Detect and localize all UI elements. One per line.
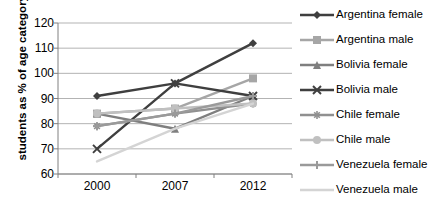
legend-marker-icon bbox=[298, 155, 336, 175]
x-axis-tick-label: 2007 bbox=[145, 180, 205, 192]
legend-marker-icon bbox=[298, 130, 336, 150]
legend-item-bolivia-male[interactable]: Bolivia male bbox=[298, 79, 398, 101]
legend-marker-icon bbox=[298, 180, 336, 200]
legend-marker-icon bbox=[298, 30, 336, 50]
legend-item-bolivia-female[interactable]: Bolivia female bbox=[298, 54, 408, 76]
legend-item-venezuela-female[interactable]: Venezuela female bbox=[298, 154, 427, 176]
marker-diamond bbox=[313, 11, 321, 19]
legend-item-label: Venezuela female bbox=[336, 159, 427, 171]
legend-item-label: Venezuela male bbox=[336, 184, 418, 196]
x-axis-tick-label: 2012 bbox=[223, 180, 283, 192]
legend-item-label: Bolivia male bbox=[336, 84, 398, 96]
marker-circle bbox=[313, 136, 321, 144]
legend-item-label: Bolivia female bbox=[336, 59, 408, 71]
marker-plus bbox=[313, 161, 321, 169]
legend-marker-icon bbox=[298, 55, 336, 75]
legend-item-label: Chile male bbox=[336, 134, 390, 146]
legend-item-argentina-male[interactable]: Argentina male bbox=[298, 29, 413, 51]
legend-marker-icon bbox=[298, 105, 336, 125]
legend-marker-icon bbox=[298, 80, 336, 100]
chart-legend: Argentina femaleArgentina maleBolivia fe… bbox=[298, 0, 440, 207]
legend-item-label: Argentina male bbox=[336, 34, 413, 46]
marker-asterisk bbox=[313, 111, 321, 119]
line-chart: students as % of age category 1201101009… bbox=[0, 0, 440, 207]
legend-item-venezuela-male[interactable]: Venezuela male bbox=[298, 179, 418, 201]
legend-marker-icon bbox=[298, 5, 336, 25]
legend-item-chile-male[interactable]: Chile male bbox=[298, 129, 390, 151]
legend-item-label: Chile female bbox=[336, 109, 400, 121]
legend-item-argentina-female[interactable]: Argentina female bbox=[298, 4, 423, 26]
marker-square bbox=[313, 36, 321, 44]
legend-item-chile-female[interactable]: Chile female bbox=[298, 104, 400, 126]
x-axis-tick-label: 2000 bbox=[67, 180, 127, 192]
legend-item-label: Argentina female bbox=[336, 9, 423, 21]
